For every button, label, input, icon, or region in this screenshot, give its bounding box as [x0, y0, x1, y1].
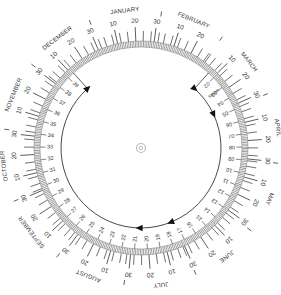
week-number: 26 [78, 213, 87, 222]
week-number: 18 [165, 231, 173, 239]
week-marker-arrow-icon [136, 225, 143, 232]
week-number: 27 [70, 205, 79, 214]
week-number: 11 [222, 178, 230, 186]
week-number: 19 [154, 234, 161, 241]
day-label: 10 [12, 173, 21, 182]
day-label: 20 [251, 198, 261, 208]
day-label: 20 [66, 36, 76, 46]
day-label: 20 [29, 213, 39, 223]
day-label: 20 [146, 272, 154, 280]
day-label: 10 [227, 54, 237, 64]
day-label: 20 [241, 71, 251, 81]
week-number: 09 [228, 156, 235, 163]
month-boundary-tick [31, 64, 35, 67]
week-number: 16 [185, 221, 193, 229]
week-number: 23 [108, 230, 116, 238]
day-label: 10 [42, 230, 52, 240]
day-label: 20 [22, 85, 32, 95]
day-label: 30 [85, 26, 95, 35]
month-boundary-tick [124, 280, 125, 285]
week-number: 15 [195, 214, 204, 223]
week-number: 17 [175, 226, 183, 234]
day-label: 20 [207, 249, 217, 259]
week-number: 04 [216, 100, 224, 108]
week-number: 06 [225, 121, 232, 128]
week-number: 10 [225, 167, 232, 174]
target-icon [137, 144, 146, 153]
day-label: 30 [252, 90, 262, 100]
week-number: 29 [57, 187, 65, 195]
week-number: 38 [64, 89, 72, 97]
day-label: 10 [109, 19, 118, 27]
calendar-wheel[interactable]: 102030JANUARY1020FEBRUARY102030MARCH1020… [0, 0, 281, 295]
week-number: 30 [52, 176, 60, 184]
day-label: 20 [10, 152, 17, 160]
week-number: 31 [49, 166, 56, 173]
month-boundary-tick [161, 12, 162, 17]
month-boundary-tick [89, 20, 91, 25]
weeks-label: weeks [207, 88, 221, 100]
week-number: 25 [87, 220, 95, 228]
day-label: 20 [196, 30, 206, 40]
day-label: 10 [48, 50, 58, 60]
month-boundary-tick [220, 37, 223, 41]
week-number: 36 [53, 109, 61, 117]
day-label: 30 [19, 193, 28, 203]
day-label: 10 [100, 266, 109, 275]
outer-month-ring: 102030JANUARY1020FEBRUARY102030MARCH1020… [0, 6, 281, 289]
week-number: 22 [120, 234, 127, 241]
day-label: 30 [240, 217, 250, 227]
month-boundary-tick [247, 228, 251, 231]
day-label: 30 [153, 17, 161, 25]
month-label-july: JULY [153, 281, 169, 289]
day-label: 20 [79, 258, 89, 268]
month-label-march: MARCH [240, 51, 259, 73]
day-label: 10 [224, 235, 234, 245]
day-label: 10 [15, 105, 24, 114]
day-label: 30 [60, 246, 70, 256]
month-boundary-tick [14, 199, 19, 201]
month-boundary-tick [273, 163, 278, 164]
month-label-may: MAY [264, 192, 274, 206]
week-number: 05 [221, 110, 229, 118]
inner-arc [61, 89, 221, 228]
week-number: 07 [228, 133, 235, 140]
day-label: 10 [176, 22, 185, 31]
week-number: 08 [229, 145, 235, 151]
day-label: 30 [188, 260, 198, 269]
day-label: 30 [124, 271, 132, 279]
day-label: 30 [10, 129, 18, 137]
week-number: 33 [47, 144, 53, 150]
week-number: 28 [63, 196, 71, 204]
week-number: 39 [72, 80, 81, 89]
week-number: 24 [98, 226, 106, 234]
month-label-april: APRIL [274, 118, 281, 137]
month-label-june: JUNE [218, 249, 235, 264]
day-label: 30 [34, 66, 44, 76]
week-marker-arrow-icon [166, 218, 175, 227]
week-number: 21 [132, 236, 138, 242]
week-number: 35 [50, 120, 57, 127]
month-boundary-tick [57, 253, 60, 257]
week-number: 34 [47, 132, 54, 139]
month-label-august: AUGUST [75, 268, 102, 284]
week-number: 14 [203, 206, 212, 215]
day-label: 20 [131, 17, 139, 24]
day-label: 30 [264, 157, 272, 165]
month-boundary-tick [4, 129, 9, 130]
week-marker-arrow-icon [209, 110, 218, 119]
week-number: 13 [210, 197, 218, 205]
hatched-day-band [34, 41, 248, 255]
week-number: 20 [143, 236, 149, 242]
day-label: 20 [265, 135, 273, 143]
month-label-october: OCTOBER [0, 150, 9, 182]
day-label: 10 [260, 178, 269, 187]
week-number: 32 [47, 155, 54, 162]
week-number: 02 [203, 81, 212, 90]
day-label: 10 [167, 268, 176, 277]
month-boundary-tick [263, 94, 268, 96]
week-number: 37 [58, 99, 66, 107]
month-boundary-tick [194, 270, 196, 275]
month-label-january: JANUARY [110, 6, 140, 15]
day-label: 10 [261, 113, 270, 122]
